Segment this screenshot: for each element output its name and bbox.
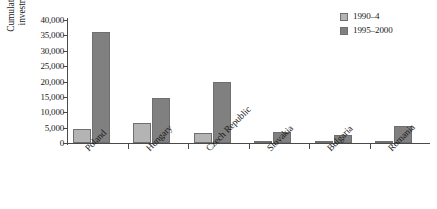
legend-label: 1995–2000 [353, 26, 393, 35]
y-axis-tick-mark [63, 66, 67, 67]
y-axis-tick-label: 25,000 [26, 62, 64, 71]
legend-swatch-icon [340, 13, 348, 21]
y-axis-tick-mark [63, 35, 67, 36]
legend: 1990–41995–2000 [340, 11, 435, 39]
bar-chart: Cumulative foreign direct investment (mi… [0, 0, 437, 209]
y-axis-tick-labels: 05,00010,00015,00020,00025,00030,00035,0… [26, 14, 64, 148]
y-axis-tick-label: 0 [26, 139, 64, 148]
y-axis-line [67, 18, 68, 145]
y-axis-tick-mark [63, 97, 67, 98]
x-axis-category-labels: PolandHungaryCzech RepublicSlovakiaBulga… [67, 146, 430, 208]
y-axis-tick-mark [63, 143, 67, 144]
y-axis-tick-mark [63, 82, 67, 83]
y-axis-tick-mark [63, 20, 67, 21]
y-axis-tick-label: 40,000 [26, 16, 64, 25]
legend-item-0: 1990–4 [340, 11, 435, 22]
y-axis-tick-label: 20,000 [26, 77, 64, 86]
legend-item-1: 1995–2000 [340, 25, 435, 36]
y-axis-tick-mark [63, 51, 67, 52]
y-axis-tick-mark [63, 128, 67, 129]
legend-label: 1990–4 [353, 12, 379, 21]
y-axis-tick-label: 10,000 [26, 108, 64, 117]
y-axis-tick-label: 5,000 [26, 123, 64, 132]
y-axis-tick-mark [63, 112, 67, 113]
y-axis-tick-label: 35,000 [26, 31, 64, 40]
y-axis-tick-label: 30,000 [26, 46, 64, 55]
legend-swatch-icon [340, 27, 348, 35]
y-axis-tick-label: 15,000 [26, 92, 64, 101]
y-axis-title-line-1: Cumulative foreign direct [6, 0, 18, 32]
